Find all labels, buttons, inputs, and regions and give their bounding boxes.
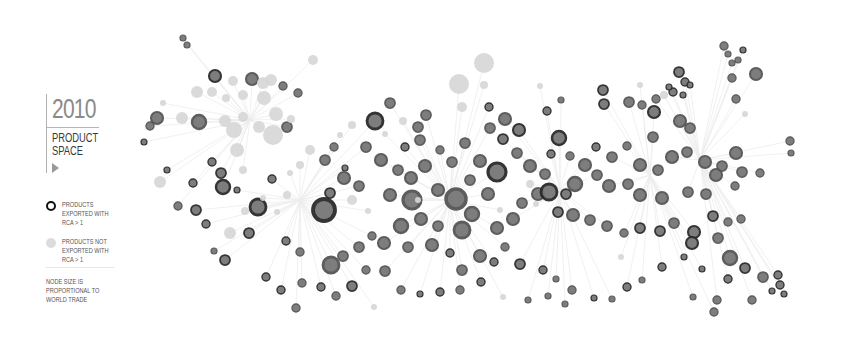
product-node-no-rca[interactable] (371, 304, 377, 310)
product-node-rca[interactable] (652, 95, 660, 103)
product-node-rca[interactable] (216, 180, 230, 194)
product-node-rca[interactable] (180, 35, 186, 41)
product-node-no-rca[interactable] (253, 121, 265, 133)
product-node-rca[interactable] (211, 248, 217, 254)
product-node-rca[interactable] (184, 42, 190, 48)
product-node-rca[interactable] (687, 82, 693, 88)
product-node-rca[interactable] (421, 110, 431, 120)
product-node-rca[interactable] (737, 167, 747, 177)
product-node-rca[interactable] (623, 142, 631, 150)
product-node-rca[interactable] (488, 163, 506, 181)
product-node-rca[interactable] (456, 286, 464, 294)
product-node-no-rca[interactable] (296, 161, 304, 169)
product-node-rca[interactable] (446, 249, 454, 257)
product-node-no-rca[interactable] (457, 102, 467, 112)
product-node-no-rca[interactable] (742, 111, 748, 117)
product-node-rca[interactable] (432, 184, 444, 196)
product-node-rca[interactable] (401, 143, 409, 151)
product-node-rca[interactable] (686, 237, 698, 249)
product-node-rca[interactable] (524, 160, 536, 172)
product-node-rca[interactable] (202, 220, 210, 228)
product-node-rca[interactable] (268, 175, 276, 183)
product-node-rca[interactable] (277, 286, 285, 294)
product-node-rca[interactable] (499, 113, 511, 125)
product-node-rca[interactable] (393, 165, 403, 175)
product-node-rca[interactable] (320, 155, 330, 165)
product-node-rca[interactable] (354, 242, 364, 252)
product-node-rca[interactable] (338, 251, 348, 261)
product-node-rca[interactable] (485, 123, 495, 133)
product-node-rca[interactable] (674, 115, 686, 127)
product-node-rca[interactable] (774, 271, 782, 279)
product-node-rca[interactable] (728, 74, 736, 82)
product-node-rca[interactable] (758, 272, 768, 282)
product-node-rca[interactable] (634, 159, 646, 171)
product-node-rca[interactable] (680, 92, 686, 98)
product-node-no-rca[interactable] (497, 207, 503, 213)
product-node-no-rca[interactable] (533, 201, 539, 207)
product-node-rca[interactable] (338, 172, 350, 184)
product-node-no-rca[interactable] (241, 207, 249, 215)
product-node-no-rca[interactable] (230, 143, 244, 157)
product-node-rca[interactable] (491, 222, 503, 234)
product-node-rca[interactable] (313, 199, 335, 221)
product-node-no-rca[interactable] (238, 112, 248, 122)
product-node-rca[interactable] (385, 98, 395, 108)
product-node-rca[interactable] (446, 189, 466, 209)
product-node-rca[interactable] (367, 113, 383, 129)
product-node-rca[interactable] (591, 295, 597, 301)
product-node-rca[interactable] (347, 281, 357, 291)
product-node-rca[interactable] (457, 265, 467, 275)
product-node-rca[interactable] (553, 207, 563, 217)
product-node-no-rca[interactable] (480, 81, 488, 89)
product-node-rca[interactable] (405, 172, 417, 184)
product-node-rca[interactable] (279, 82, 287, 90)
product-node-no-rca[interactable] (228, 76, 238, 86)
product-node-rca[interactable] (740, 47, 746, 53)
product-node-rca[interactable] (724, 275, 732, 283)
product-node-rca[interactable] (669, 218, 679, 228)
product-node-no-rca[interactable] (224, 227, 236, 239)
product-node-no-rca[interactable] (347, 195, 357, 205)
product-node-rca[interactable] (543, 107, 551, 115)
product-node-no-rca[interactable] (257, 91, 271, 105)
product-node-no-rca[interactable] (308, 55, 318, 65)
product-node-no-rca[interactable] (265, 74, 277, 86)
product-node-rca[interactable] (244, 228, 254, 238)
product-node-no-rca[interactable] (449, 74, 469, 94)
product-node-rca[interactable] (354, 181, 364, 191)
product-node-rca[interactable] (620, 229, 628, 237)
product-node-rca[interactable] (688, 226, 700, 238)
product-node-rca[interactable] (490, 258, 498, 266)
product-node-rca[interactable] (562, 301, 568, 307)
product-node-rca[interactable] (737, 215, 745, 223)
product-node-rca[interactable] (699, 156, 711, 168)
product-node-rca[interactable] (220, 255, 230, 265)
product-node-rca[interactable] (417, 291, 423, 297)
product-node-rca[interactable] (436, 288, 444, 296)
product-node-rca[interactable] (750, 68, 762, 80)
product-node-rca[interactable] (262, 273, 270, 281)
product-node-rca[interactable] (209, 70, 221, 82)
product-node-rca[interactable] (579, 159, 591, 171)
product-node-rca[interactable] (501, 243, 509, 251)
product-node-rca[interactable] (397, 286, 405, 294)
product-node-no-rca[interactable] (269, 107, 283, 121)
product-node-rca[interactable] (189, 179, 197, 187)
product-node-rca[interactable] (323, 257, 339, 273)
product-node-rca[interactable] (552, 131, 566, 145)
product-node-rca[interactable] (394, 219, 408, 233)
product-node-rca[interactable] (639, 277, 645, 283)
product-node-rca[interactable] (729, 60, 735, 66)
product-node-no-rca[interactable] (305, 145, 315, 155)
product-node-rca[interactable] (362, 266, 370, 274)
product-node-rca[interactable] (731, 182, 739, 190)
product-node-rca[interactable] (454, 222, 470, 238)
product-node-rca[interactable] (380, 266, 390, 276)
product-node-rca[interactable] (525, 297, 531, 303)
product-node-rca[interactable] (474, 250, 486, 262)
product-node-rca[interactable] (191, 205, 201, 215)
product-node-rca[interactable] (666, 84, 672, 90)
product-node-rca[interactable] (710, 169, 722, 181)
product-node-no-rca[interactable] (337, 132, 343, 138)
